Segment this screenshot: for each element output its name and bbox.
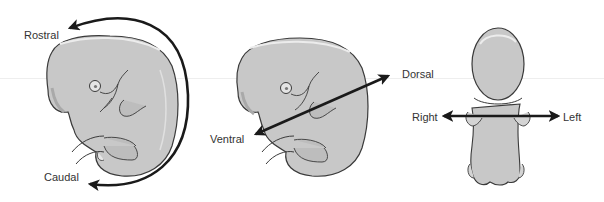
orientation-diagram: Rostral Caudal Dorsal Ventral Right Left bbox=[0, 0, 604, 202]
label-dorsal: Dorsal bbox=[402, 68, 434, 80]
eye-pupil bbox=[285, 87, 288, 90]
label-caudal: Caudal bbox=[44, 171, 79, 183]
label-left: Left bbox=[563, 111, 581, 123]
embryo-lateral-1 bbox=[47, 36, 178, 177]
eye-pupil bbox=[94, 85, 97, 88]
embryo-lateral-2 bbox=[237, 38, 368, 176]
label-ventral: Ventral bbox=[210, 133, 244, 145]
embryo-dorsal-view bbox=[466, 28, 530, 185]
label-right: Right bbox=[412, 111, 438, 123]
diagram-graphics bbox=[0, 0, 604, 202]
embryo-head bbox=[472, 28, 524, 100]
label-rostral: Rostral bbox=[24, 29, 59, 41]
